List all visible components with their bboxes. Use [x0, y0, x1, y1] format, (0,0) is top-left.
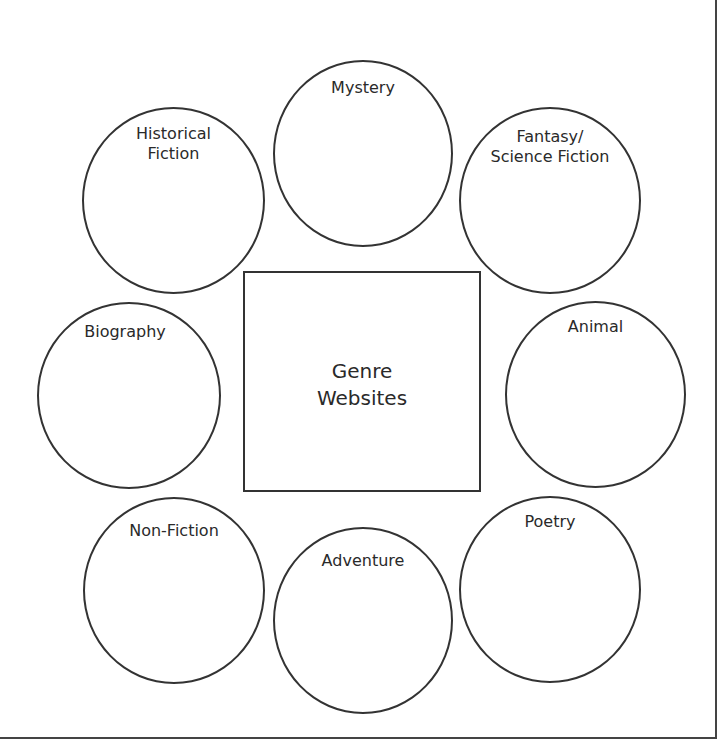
genre-circle-non-fiction: Non-Fiction — [83, 497, 265, 684]
genre-circle-fantasy-science-fiction: Fantasy/ Science Fiction — [459, 107, 641, 294]
genre-circle-historical-fiction: Historical Fiction — [82, 107, 265, 294]
center-topic-box: Genre Websites — [243, 271, 481, 492]
genre-circle-mystery: Mystery — [273, 60, 453, 247]
frame-border-bottom — [0, 737, 717, 739]
genre-circle-poetry: Poetry — [459, 496, 641, 683]
genre-label-adventure: Adventure — [275, 551, 451, 571]
genre-circle-animal: Animal — [505, 301, 686, 488]
center-topic-label: Genre Websites — [245, 358, 479, 412]
genre-label-non-fiction: Non-Fiction — [85, 521, 263, 541]
genre-label-animal: Animal — [507, 317, 684, 337]
genre-circle-adventure: Adventure — [273, 527, 453, 714]
genre-label-poetry: Poetry — [461, 512, 639, 532]
genre-label-biography: Biography — [39, 322, 219, 342]
frame-border-right — [715, 0, 717, 739]
genre-label-mystery: Mystery — [275, 78, 451, 98]
genre-circle-biography: Biography — [37, 302, 221, 489]
genre-label-fantasy-science-fiction: Fantasy/ Science Fiction — [461, 127, 639, 167]
genre-label-historical-fiction: Historical Fiction — [84, 124, 263, 164]
